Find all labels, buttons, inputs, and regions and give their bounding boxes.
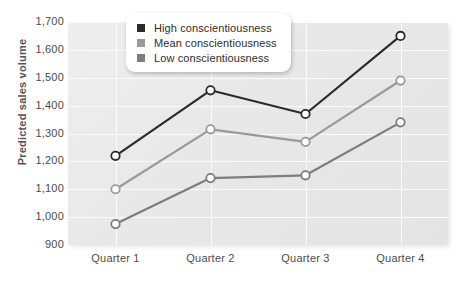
- series-line: [116, 122, 401, 224]
- y-axis-tick: 1,700: [35, 15, 64, 27]
- y-axis-tick: 1,500: [35, 71, 64, 83]
- x-axis-tick: Quarter 1: [91, 252, 139, 264]
- data-point-marker: [396, 76, 404, 84]
- data-point-marker: [396, 118, 404, 126]
- y-axis-label: Predicted sales volume: [16, 32, 28, 172]
- y-axis-tick: 1,100: [35, 182, 64, 194]
- legend-swatch-icon: [137, 24, 145, 32]
- data-point-marker: [301, 110, 309, 118]
- line-chart: Predicted sales volume 9001,0001,1001,20…: [0, 0, 466, 282]
- data-point-marker: [396, 32, 404, 40]
- data-point-marker: [111, 152, 119, 160]
- x-axis-tick: Quarter 2: [186, 252, 234, 264]
- y-axis-tick: 900: [45, 238, 64, 250]
- data-point-marker: [301, 138, 309, 146]
- data-point-marker: [206, 86, 214, 94]
- legend-item: Mean conscientiousness: [137, 35, 277, 50]
- series-line: [116, 81, 401, 190]
- x-axis-tick: Quarter 4: [376, 252, 424, 264]
- y-axis-tick: 1,200: [35, 154, 64, 166]
- data-point-marker: [206, 125, 214, 133]
- y-axis-tick: 1,000: [35, 210, 64, 222]
- y-axis-tick: 1,600: [35, 43, 64, 55]
- y-axis-tick: 1,300: [35, 127, 64, 139]
- legend-item: High conscientiousness: [137, 20, 277, 35]
- legend-item-label: Low conscientiousness: [154, 52, 269, 64]
- legend-item-label: High conscientiousness: [154, 22, 272, 34]
- data-point-marker: [111, 220, 119, 228]
- legend: High conscientiousnessMean conscientious…: [126, 13, 291, 72]
- data-point-marker: [111, 185, 119, 193]
- data-point-marker: [206, 174, 214, 182]
- y-axis-tick: 1,400: [35, 99, 64, 111]
- legend-swatch-icon: [137, 39, 145, 47]
- legend-swatch-icon: [137, 54, 145, 62]
- legend-item: Low conscientiousness: [137, 50, 277, 65]
- data-point-marker: [301, 171, 309, 179]
- x-axis-tick: Quarter 3: [281, 252, 329, 264]
- legend-item-label: Mean conscientiousness: [154, 37, 277, 49]
